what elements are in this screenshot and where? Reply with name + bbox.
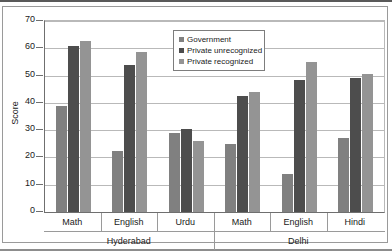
bar bbox=[350, 78, 361, 212]
gridline bbox=[45, 130, 384, 131]
legend-swatch-icon bbox=[179, 59, 184, 64]
y-axis-tick-label: 0 bbox=[5, 206, 35, 215]
axis-separator bbox=[101, 213, 102, 232]
bar bbox=[112, 151, 123, 212]
y-axis-tick bbox=[36, 75, 43, 76]
y-axis-tick bbox=[36, 156, 43, 157]
y-axis-title: Score bbox=[10, 83, 20, 143]
group-label: Delhi bbox=[214, 232, 384, 250]
y-axis-tick-label: 60 bbox=[5, 42, 35, 51]
bar bbox=[282, 174, 293, 212]
category-label: Hindi bbox=[327, 213, 384, 231]
legend-swatch-icon bbox=[179, 37, 184, 42]
bar bbox=[136, 52, 147, 212]
top-divider bbox=[0, 0, 392, 2]
legend-item: Government bbox=[179, 34, 260, 45]
bar bbox=[68, 46, 79, 212]
bar bbox=[225, 144, 236, 212]
y-axis-tick bbox=[36, 211, 43, 212]
y-axis-tick-label: 10 bbox=[5, 179, 35, 188]
y-axis-tick-label: 70 bbox=[5, 15, 35, 24]
legend-item: Private recognized bbox=[179, 56, 260, 67]
legend-label: Private recognized bbox=[187, 57, 253, 66]
legend-item: Private unrecognized bbox=[179, 45, 260, 56]
bar bbox=[237, 96, 248, 212]
bar bbox=[193, 141, 204, 212]
y-axis-tick-label: 20 bbox=[5, 151, 35, 160]
bar bbox=[169, 133, 180, 212]
y-axis-tick bbox=[36, 184, 43, 185]
group-axis: HyderabadDelhi bbox=[44, 232, 385, 250]
bar bbox=[294, 80, 305, 212]
legend-swatch-icon bbox=[179, 48, 184, 53]
bar bbox=[181, 129, 192, 212]
gridline bbox=[45, 21, 384, 22]
axis-separator bbox=[327, 213, 328, 232]
gridline bbox=[45, 185, 384, 186]
chart-frame: Score 010203040506070 MathEnglishUrduMat… bbox=[2, 6, 388, 243]
bar bbox=[338, 138, 349, 212]
bar bbox=[124, 65, 135, 212]
group-label: Hyderabad bbox=[44, 232, 214, 250]
category-label: Math bbox=[44, 213, 101, 231]
y-axis-tick-label: 40 bbox=[5, 97, 35, 106]
y-axis-tick-label: 50 bbox=[5, 70, 35, 79]
category-label: English bbox=[270, 213, 327, 231]
bar bbox=[80, 41, 91, 212]
axis-separator bbox=[157, 213, 158, 232]
bar bbox=[306, 62, 317, 212]
chart-figure: Score 010203040506070 MathEnglishUrduMat… bbox=[0, 0, 392, 251]
bar bbox=[362, 74, 373, 212]
y-axis-tick bbox=[36, 102, 43, 103]
bar bbox=[56, 106, 67, 212]
axis-separator bbox=[270, 213, 271, 232]
legend-label: Government bbox=[187, 35, 231, 44]
category-label: Math bbox=[214, 213, 271, 231]
y-axis-tick-label: 30 bbox=[5, 124, 35, 133]
gridline bbox=[45, 76, 384, 77]
category-axis: MathEnglishUrduMathEnglishHindi bbox=[44, 213, 385, 232]
legend-label: Private unrecognized bbox=[187, 46, 262, 55]
y-axis-tick bbox=[36, 47, 43, 48]
chart-legend: GovernmentPrivate unrecognizedPrivate re… bbox=[173, 30, 265, 71]
y-axis-tick bbox=[36, 20, 43, 21]
bar bbox=[249, 92, 260, 212]
category-label: English bbox=[101, 213, 158, 231]
category-label: Urdu bbox=[157, 213, 214, 231]
y-axis-tick bbox=[36, 129, 43, 130]
gridline bbox=[45, 157, 384, 158]
gridline bbox=[45, 103, 384, 104]
